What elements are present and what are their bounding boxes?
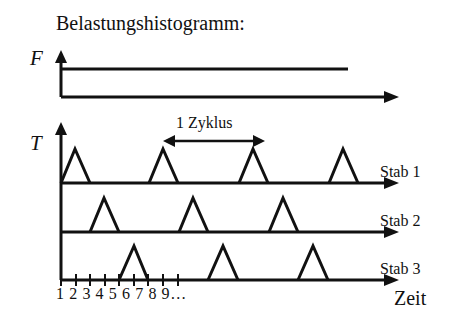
torque-axis-arrow-icon bbox=[55, 122, 67, 135]
histogram-graphic bbox=[0, 0, 456, 325]
stab-1-pulse bbox=[61, 149, 90, 183]
stab-2-arrow-icon bbox=[384, 226, 399, 238]
cycle-right-arrow-icon bbox=[253, 135, 265, 147]
cycle-left-arrow-icon bbox=[163, 135, 175, 147]
stab-2-pulse bbox=[90, 198, 119, 232]
stab-1-pulse bbox=[239, 149, 268, 183]
stab-3-pulse bbox=[298, 246, 328, 280]
force-x-arrow-icon bbox=[384, 91, 399, 103]
force-axis-arrow-icon bbox=[55, 50, 67, 63]
stab-1-pulse bbox=[149, 149, 178, 183]
stab-1-pulse bbox=[329, 149, 358, 183]
stab-2-pulse bbox=[179, 198, 208, 232]
stab-3-arrow-icon bbox=[384, 274, 399, 286]
arrowheads bbox=[55, 50, 399, 286]
stab-3-pulse bbox=[208, 246, 238, 280]
stab-2-pulse bbox=[269, 198, 298, 232]
stab-1-arrow-icon bbox=[384, 177, 399, 189]
